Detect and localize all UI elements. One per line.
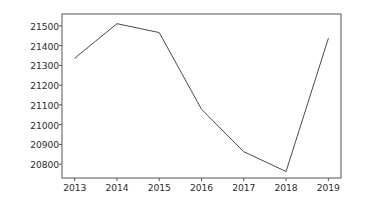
y-tick-label: 21100 (30, 99, 59, 110)
x-tick-label: 2013 (63, 182, 86, 193)
x-tick-label: 2018 (275, 182, 298, 193)
plot-background (62, 14, 341, 178)
x-tick-label: 2016 (190, 182, 213, 193)
y-tick-label: 21200 (30, 80, 59, 91)
y-tick-label: 20800 (30, 159, 59, 170)
y-tick-label: 21000 (30, 119, 59, 130)
chart-figure: 2080020900210002110021200213002140021500… (0, 0, 365, 207)
y-tick-label: 20900 (30, 139, 59, 150)
x-tick-label: 2019 (317, 182, 340, 193)
y-tick-label: 21400 (30, 40, 59, 51)
x-tick-label: 2017 (232, 182, 255, 193)
x-tick-label: 2015 (148, 182, 171, 193)
y-tick-label: 21300 (30, 60, 59, 71)
y-tick-label: 21500 (30, 20, 59, 31)
x-tick-label: 2014 (105, 182, 128, 193)
